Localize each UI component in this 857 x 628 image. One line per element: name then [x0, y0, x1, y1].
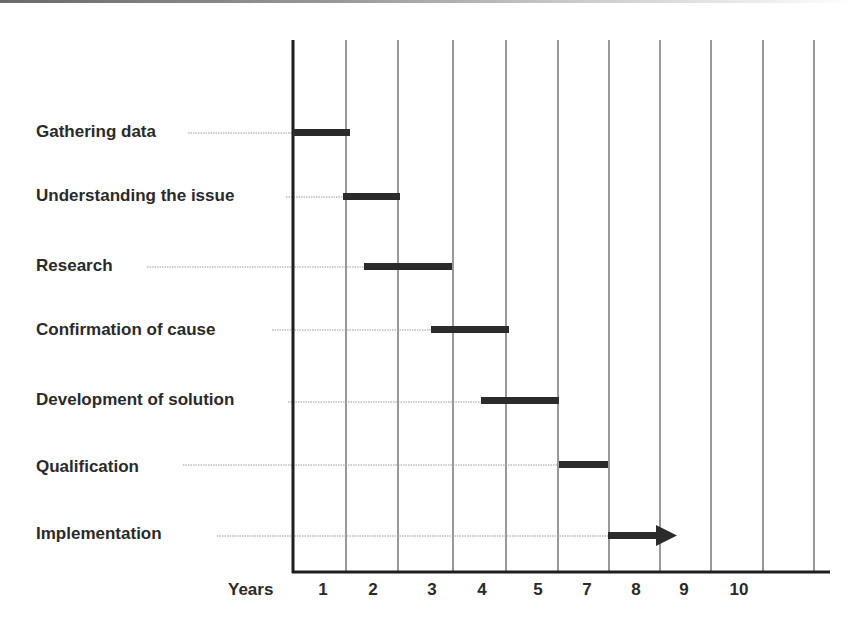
bar-confirmation-of-cause: [431, 326, 509, 333]
x-axis-title: Years: [228, 580, 273, 600]
task-label-research: Research: [36, 256, 113, 276]
task-label-confirmation-of-cause: Confirmation of cause: [36, 320, 215, 340]
task-label-development-of-solution: Development of solution: [36, 390, 234, 410]
x-tick-label: 2: [368, 580, 377, 600]
task-label-qualification: Qualification: [36, 457, 139, 477]
x-tick-label: 5: [533, 580, 542, 600]
arrow-head-icon: [656, 525, 677, 546]
task-label-gathering-data: Gathering data: [36, 122, 156, 142]
x-tick-label: 10: [730, 580, 749, 600]
bar-implementation-arrow: [608, 525, 677, 546]
bar-gathering-data: [293, 129, 350, 136]
bar-understanding-the-issue: [343, 193, 400, 200]
task-label-implementation: Implementation: [36, 524, 162, 544]
task-bars: [293, 129, 677, 546]
x-tick-label: 1: [318, 580, 327, 600]
bar-research: [364, 263, 452, 270]
x-tick-label: 7: [582, 580, 591, 600]
bar-development-of-solution: [481, 397, 559, 404]
x-tick-label: 8: [631, 580, 640, 600]
gridlines: [346, 40, 814, 572]
bar-qualification: [559, 461, 608, 468]
x-tick-label: 3: [427, 580, 436, 600]
x-tick-label: 9: [679, 580, 688, 600]
x-tick-label: 4: [477, 580, 486, 600]
task-label-understanding-the-issue: Understanding the issue: [36, 186, 234, 206]
